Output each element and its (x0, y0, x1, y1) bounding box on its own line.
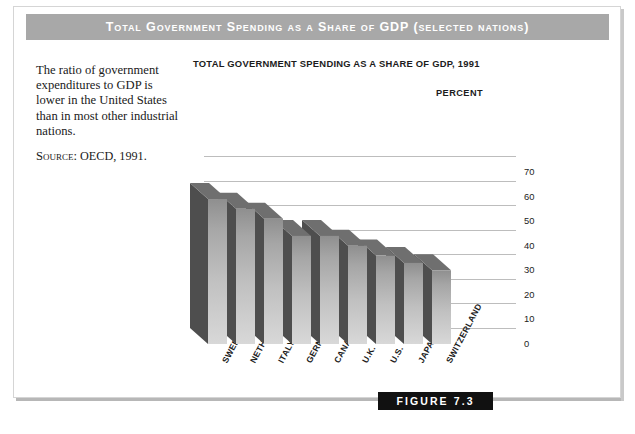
bar-geometry (190, 106, 227, 388)
bar-front-face (432, 270, 451, 344)
caption-body: The ratio of government expenditures to … (36, 63, 184, 139)
chart: TOTAL GOVERNMENT SPENDING AS A SHARE OF … (186, 58, 606, 388)
bar-front-face (208, 199, 227, 344)
bar-front-face (376, 256, 395, 344)
bar-front-face (264, 219, 283, 344)
bar-sweden (208, 106, 227, 388)
figure-header-title: Total Government Spending as a Share of … (106, 20, 529, 34)
figure-header-banner: Total Government Spending as a Share of … (26, 14, 609, 40)
bar-front-face (320, 236, 339, 344)
bar-front-face (236, 209, 255, 344)
bar-switzerland (432, 106, 451, 388)
bar-front-face (292, 236, 311, 344)
bar-netherlands (236, 106, 255, 388)
plot-area: 706050403020100 SWITZERLANDJAPANU.S.U.K.… (186, 106, 606, 388)
y-axis-unit-label: PERCENT (436, 88, 483, 98)
figure-number-text: FIGURE 7.3 (396, 395, 474, 407)
bar-canada (320, 106, 339, 388)
caption-block: The ratio of government expenditures to … (36, 63, 184, 163)
frame-shadow-bottom (16, 398, 624, 401)
bar-japan (404, 106, 423, 388)
bar-front-face (404, 263, 423, 344)
frame-shadow-right (621, 9, 624, 401)
chart-title: TOTAL GOVERNMENT SPENDING AS A SHARE OF … (193, 58, 480, 69)
bar-italy (264, 106, 283, 388)
bar-left-face (190, 183, 208, 344)
bar-u-k- (348, 106, 367, 388)
bar-front-face (348, 246, 367, 344)
caption-source-value: OECD, 1991. (77, 149, 147, 163)
figure-number-badge: FIGURE 7.3 (378, 392, 493, 410)
caption-source-label: Source: (36, 149, 77, 163)
caption-source: Source: OECD, 1991. (36, 149, 184, 163)
figure-container: Total Government Spending as a Share of … (0, 0, 635, 434)
bar-germany (292, 106, 311, 388)
bar-u-s- (376, 106, 395, 388)
